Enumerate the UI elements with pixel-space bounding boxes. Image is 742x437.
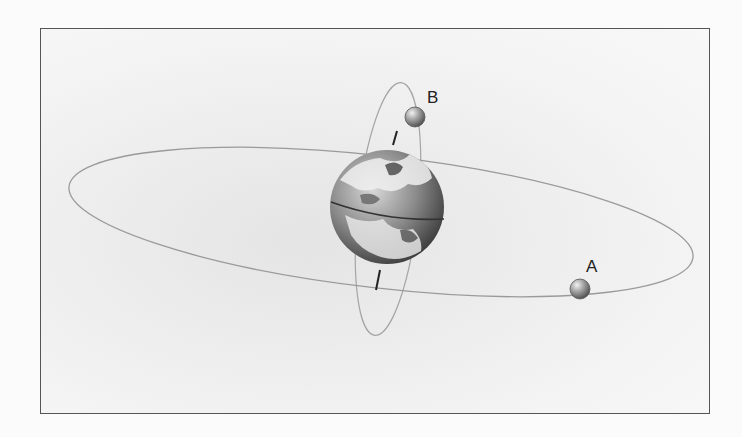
- orbit-scene: [0, 0, 742, 437]
- earth-axis-south: [376, 270, 380, 290]
- earth-globe: [330, 150, 444, 264]
- earth-axis-north: [393, 131, 397, 145]
- satellite-a-label: A: [586, 257, 597, 277]
- satellite-b-label: B: [427, 88, 438, 108]
- satellite-b: [405, 107, 425, 127]
- satellite-a: [570, 279, 590, 299]
